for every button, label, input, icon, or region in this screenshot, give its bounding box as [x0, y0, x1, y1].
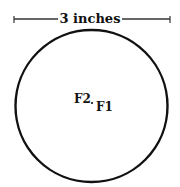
focus-point-dot [91, 102, 93, 104]
focus-label-f1: F1 [96, 100, 113, 114]
focus-label-f2: F2 [74, 92, 91, 106]
circle-diagram: 3 inches F2 F1 [0, 0, 180, 187]
dimension-label: 3 inches [60, 11, 121, 26]
circle [16, 30, 168, 182]
